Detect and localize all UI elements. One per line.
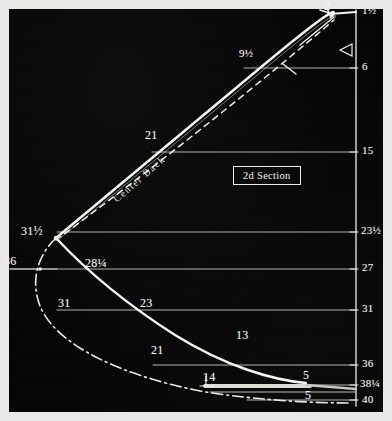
section-caption-box: 2d Section (233, 166, 301, 185)
axis-arrow-marker (340, 44, 352, 56)
offset-label-2: 2 (324, 0, 330, 14)
keel-strip-taper (306, 385, 356, 389)
station-label-15: 15 (362, 144, 373, 156)
station-label-36: 36 (362, 357, 373, 369)
offset-label-14: 14 (203, 370, 215, 385)
offset-label-36: 36 (4, 254, 16, 269)
station-label-38-25: 38¼ (360, 377, 380, 389)
station-label-6: 6 (362, 60, 368, 72)
section-drawing (0, 0, 392, 421)
offset-label-5-lower: 5 (305, 388, 311, 403)
offset-label-21-upper: 21 (145, 128, 157, 143)
offset-label-28-25: 28¼ (85, 256, 107, 271)
section-caption-text: 2d Section (243, 170, 291, 181)
station-36-node (38, 267, 42, 271)
offset-label-9-5: 9½ (239, 47, 253, 59)
station-ticks (350, 68, 358, 400)
offset-label-21-lower: 21 (151, 343, 163, 358)
station-label-23-5: 23½ (361, 224, 381, 236)
deck-line-inner (58, 15, 336, 240)
station-label-1-5: 1½ (362, 4, 376, 16)
offset-label-23: 23 (140, 296, 152, 311)
batten-hatch (283, 64, 296, 74)
figure-sheet: 1½ 6 15 23½ 27 31 36 38¼ 40 2 9½ 21 31½ … (0, 0, 392, 421)
station-label-31: 31 (362, 302, 373, 314)
offset-label-13: 13 (236, 328, 248, 343)
station-label-40: 40 (362, 393, 373, 405)
vertex-node (54, 236, 58, 240)
offset-label-31-lower: 31 (58, 296, 70, 311)
offset-label-5-upper: 5 (303, 368, 309, 383)
station-label-27: 27 (362, 261, 373, 273)
offset-label-31-5: 31½ (21, 224, 43, 239)
